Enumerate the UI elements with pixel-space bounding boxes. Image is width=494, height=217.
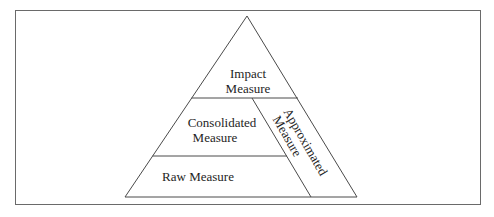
label-raw-measure: Raw Measure xyxy=(162,169,234,184)
pyramid-diagram: Impact Measure Consolidated Measure Raw … xyxy=(0,0,494,217)
consolidated-line-2: Measure xyxy=(193,130,238,145)
diagram-canvas: Impact Measure Consolidated Measure Raw … xyxy=(0,0,494,217)
impact-line-1: Impact xyxy=(230,66,266,81)
raw-line-1: Raw Measure xyxy=(162,169,234,184)
figure-frame xyxy=(16,11,481,205)
impact-line-2: Measure xyxy=(226,81,271,96)
label-impact-measure: Impact Measure xyxy=(226,66,271,96)
consolidated-line-1: Consolidated xyxy=(188,115,257,130)
